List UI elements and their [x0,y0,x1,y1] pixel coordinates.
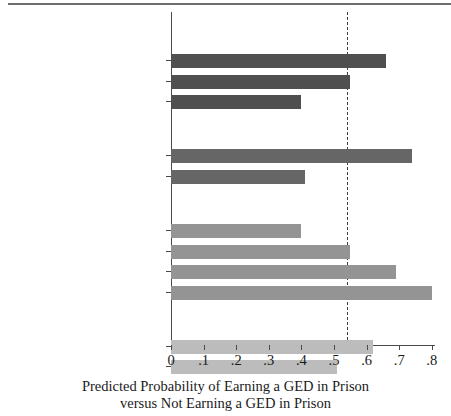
bar-row [171,170,305,184]
bar-row [171,245,350,259]
y-tick-mark [166,176,171,177]
y-tick-mark [166,251,171,252]
bar-row [171,286,432,300]
y-tick-mark [166,271,171,272]
x-tick-mark [171,345,172,350]
x-axis-title: Predicted Probability of Earning a GED i… [0,378,451,412]
x-tick-mark [367,345,368,350]
bar-white [171,149,412,163]
bar-two-years [171,245,350,259]
bar-row [171,75,350,89]
ged-probability-bar-chart: Predicted Probability of Earning a GED i… [0,0,451,416]
bar-row [171,95,301,109]
y-tick-mark [166,155,171,156]
y-tick-mark [166,230,171,231]
bar-row [171,149,412,163]
bar-four-years [171,286,432,300]
page-top-rule [8,3,451,5]
x-tick-mark [301,345,302,350]
x-tick-mark [269,345,270,350]
y-tick-mark [166,81,171,82]
x-tick-mark [432,345,433,350]
bar-black [171,170,305,184]
bar-row [171,265,396,279]
bar-row [171,224,301,238]
x-axis-title-line-1: Predicted Probability of Earning a GED i… [0,378,451,395]
x-axis-title-line-2: versus Not Earning a GED in Prison [0,395,451,412]
x-tick-mark [204,345,205,350]
bar-three-years [171,265,396,279]
x-tick-mark [399,345,400,350]
y-tick-mark [166,60,171,61]
y-tick-mark [166,292,171,293]
y-tick-mark [166,101,171,102]
bar-twenty-five [171,95,301,109]
x-tick-mark [334,345,335,350]
x-tick-label: .8 [412,352,451,368]
bar-one-year [171,224,301,238]
bar-eighteen [171,54,386,68]
x-tick-mark [236,345,237,350]
bar-row [171,54,386,68]
bar-twenty-one [171,75,350,89]
